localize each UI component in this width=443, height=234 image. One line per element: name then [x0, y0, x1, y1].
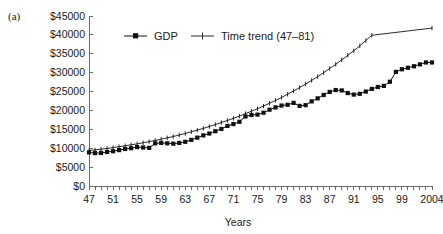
gdp-data-point: [141, 145, 145, 149]
x-tick-label: 99: [396, 193, 408, 205]
y-tick-label: $15000: [50, 123, 85, 135]
x-tick-label: 59: [155, 193, 167, 205]
gdp-data-point: [243, 114, 247, 118]
y-axis: $0$5000$10000$15000$20000$25000$30000$35…: [50, 10, 93, 192]
x-tick-label: 71: [228, 193, 240, 205]
y-tick-label: $45000: [50, 10, 85, 22]
gdp-data-point: [316, 96, 320, 100]
y-tick-label: $20000: [50, 104, 85, 116]
x-tick-label: 79: [276, 193, 288, 205]
gdp-data-point: [279, 103, 283, 107]
gdp-data-point: [189, 138, 193, 142]
y-tick-label: $10000: [50, 142, 85, 154]
gdp-data-point: [147, 146, 151, 150]
legend: GDP Time trend (47–81): [124, 30, 314, 42]
gdp-data-point: [291, 101, 295, 105]
legend-item-gdp: GDP: [124, 30, 178, 42]
x-tick-label: 83: [300, 193, 312, 205]
gdp-data-point: [358, 92, 362, 96]
x-axis-tick-labels: 47515559636771757983879195992004: [83, 193, 443, 205]
x-tick-label: 2004: [420, 193, 443, 205]
gdp-data-point: [219, 127, 223, 131]
y-tick-label: $0: [73, 180, 85, 192]
gdp-data-point: [183, 140, 187, 144]
x-tick-label: 55: [131, 193, 143, 205]
x-tick-label: 51: [107, 193, 119, 205]
gdp-data-point: [376, 85, 380, 89]
gdp-data-point: [346, 91, 350, 95]
y-tick-label: $5000: [56, 161, 85, 173]
gdp-data-point: [340, 88, 344, 92]
gdp-data-point: [370, 87, 374, 91]
time-trend-series-line: [89, 28, 432, 150]
gdp-data-point: [273, 105, 277, 109]
gdp-data-point: [406, 66, 410, 70]
gdp-data-point: [177, 141, 181, 145]
gdp-data-point: [171, 142, 175, 146]
gdp-data-point: [400, 67, 404, 71]
gdp-data-point: [159, 141, 163, 145]
x-tick-label: 67: [204, 193, 216, 205]
y-tick-label: $25000: [50, 85, 85, 97]
y-tick-label: $30000: [50, 66, 85, 78]
gdp-data-point: [99, 151, 103, 155]
gdp-data-point: [231, 122, 235, 126]
gdp-data-point: [310, 99, 314, 103]
gdp-data-point: [225, 124, 229, 128]
gdp-data-point: [207, 131, 211, 135]
x-tick-label: 91: [348, 193, 360, 205]
gdp-data-point: [430, 60, 434, 64]
y-axis-ticks: [89, 16, 93, 186]
x-axis-ticks: [89, 186, 432, 190]
panel-label: (a): [8, 10, 20, 22]
gdp-data-point: [153, 141, 157, 145]
x-tick-label: 63: [179, 193, 191, 205]
gdp-data-point: [111, 149, 115, 153]
legend-label-gdp: GDP: [154, 30, 178, 42]
gdp-data-point: [129, 146, 133, 150]
gdp-data-point: [93, 151, 97, 155]
gdp-data-point: [298, 104, 302, 108]
gdp-data-point: [394, 70, 398, 74]
gdp-time-trend-figure: (a) $0$5000$10000$15000$20000$25000$3000…: [0, 0, 443, 234]
y-tick-label: $35000: [50, 47, 85, 59]
gdp-data-point: [412, 64, 416, 68]
gdp-data-point: [267, 108, 271, 112]
legend-gdp-marker-icon: [133, 33, 138, 38]
gdp-data-point: [261, 111, 265, 115]
y-tick-label: $40000: [50, 28, 85, 40]
plot-area: [87, 26, 434, 155]
x-tick-label: 95: [372, 193, 384, 205]
gdp-data-point: [352, 92, 356, 96]
gdp-data-point: [418, 62, 422, 66]
x-tick-label: 47: [83, 193, 95, 205]
gdp-data-point: [237, 120, 241, 124]
gdp-data-point: [388, 80, 392, 84]
gdp-data-point: [195, 136, 199, 140]
gdp-data-point: [255, 113, 259, 117]
gdp-data-point: [364, 89, 368, 93]
gdp-data-point: [87, 150, 91, 154]
gdp-data-point: [304, 103, 308, 107]
gdp-data-point: [117, 148, 121, 152]
gdp-data-point: [322, 93, 326, 97]
gdp-data-point: [424, 60, 428, 64]
gdp-data-point: [135, 145, 139, 149]
y-axis-tick-labels: $0$5000$10000$15000$20000$25000$30000$35…: [50, 10, 85, 192]
chart-canvas: $0$5000$10000$15000$20000$25000$30000$35…: [0, 0, 443, 234]
time-trend-series-markers: [89, 26, 432, 153]
gdp-data-point: [249, 113, 253, 117]
x-axis-title: Years: [225, 216, 251, 228]
legend-label-time-trend: Time trend (47–81): [221, 30, 314, 42]
gdp-data-point: [201, 133, 205, 137]
gdp-data-point: [334, 88, 338, 92]
x-tick-label: 75: [252, 193, 264, 205]
gdp-data-point: [165, 141, 169, 145]
gdp-data-point: [123, 147, 127, 151]
gdp-data-point: [328, 90, 332, 94]
gdp-data-point: [213, 129, 217, 133]
x-tick-label: 87: [324, 193, 336, 205]
gdp-data-point: [382, 84, 386, 88]
gdp-data-point: [285, 103, 289, 107]
x-axis: 47515559636771757983879195992004: [83, 186, 443, 205]
